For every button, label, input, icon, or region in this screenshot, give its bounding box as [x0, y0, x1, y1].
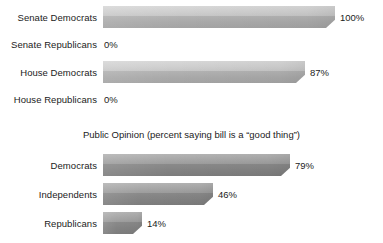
bar-senate-democrats	[103, 6, 335, 28]
chart-row: Independents 46%	[0, 181, 383, 207]
bar-category-label: Democrats	[0, 160, 97, 171]
bar-face	[103, 212, 142, 234]
bar-value-label: 0%	[104, 94, 118, 105]
bar-public-republicans	[103, 212, 142, 234]
bar-public-democrats	[103, 154, 290, 176]
bar-category-label: Independents	[0, 189, 97, 200]
bar-zone: 0%	[103, 86, 383, 112]
bar-zone: 100%	[103, 4, 383, 30]
chart-row: Democrats 79%	[0, 152, 383, 178]
bar-face	[103, 183, 213, 205]
bar-face	[103, 61, 305, 83]
chart-row: House Republicans 0%	[0, 86, 383, 112]
bar-track	[103, 183, 213, 205]
bar-value-label: 100%	[340, 12, 364, 23]
bar-category-label: House Republicans	[0, 94, 97, 105]
bar-zone: 46%	[103, 181, 383, 207]
chart-row: Senate Republicans 0%	[0, 31, 383, 57]
bar-value-label: 87%	[310, 67, 329, 78]
bar-track	[103, 61, 305, 83]
chart-row: Senate Democrats 100%	[0, 4, 383, 30]
bar-track	[103, 154, 290, 176]
bar-track	[103, 6, 335, 28]
bar-value-label: 0%	[104, 39, 118, 50]
chart-row: Republicans 14%	[0, 210, 383, 236]
bar-house-democrats	[103, 61, 305, 83]
public-opinion-title: Public Opinion (percent saying bill is a…	[0, 129, 383, 141]
bar-value-label: 14%	[147, 218, 166, 229]
bar-track	[103, 212, 142, 234]
bar-category-label: House Democrats	[0, 67, 97, 78]
bar-value-label: 79%	[295, 160, 314, 171]
bar-face	[103, 6, 335, 28]
chart-row: House Democrats 87%	[0, 59, 383, 85]
bar-category-label: Senate Democrats	[0, 12, 97, 23]
bar-zone: 87%	[103, 59, 383, 85]
bar-face	[103, 154, 290, 176]
bar-zone: 14%	[103, 210, 383, 236]
bar-chart-figure: Senate Democrats 100% Senate Republicans	[0, 0, 383, 243]
bar-category-label: Republicans	[0, 218, 97, 229]
bar-category-label: Senate Republicans	[0, 39, 97, 50]
bar-public-independents	[103, 183, 213, 205]
bar-zone: 79%	[103, 152, 383, 178]
bar-zone: 0%	[103, 31, 383, 57]
bar-value-label: 46%	[218, 189, 237, 200]
